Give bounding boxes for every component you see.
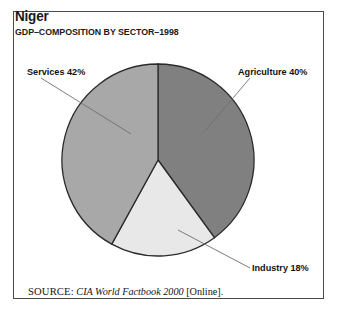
chart-subtitle: GDP–COMPOSITION BY SECTOR–1998 (15, 27, 179, 37)
source-note: SOURCE: CIA World Factbook 2000 [Online]… (28, 286, 223, 297)
source-work-title: CIA World Factbook 2000 (76, 286, 183, 297)
source-kicker: SOURCE: (28, 286, 74, 297)
slice-label-agriculture: Agriculture 40% (238, 66, 307, 77)
slice-label-industry: Industry 18% (252, 262, 309, 273)
slice-label-services: Services 42% (27, 66, 85, 77)
source-medium: [Online]. (186, 286, 223, 297)
heading-block: Niger GDP–COMPOSITION BY SECTOR–1998 (15, 9, 187, 37)
page-title: Niger (15, 9, 175, 24)
